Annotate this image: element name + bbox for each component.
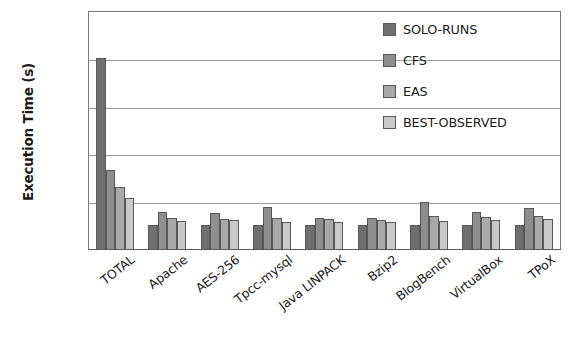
- bar: [386, 222, 396, 249]
- bar: [96, 58, 106, 249]
- bar: [220, 219, 230, 249]
- bar: [106, 170, 116, 249]
- bar: [158, 212, 168, 249]
- legend-swatch-icon: [383, 23, 396, 36]
- legend-swatch-icon: [383, 85, 396, 98]
- bar-group: [298, 12, 350, 249]
- bar: [210, 213, 220, 249]
- bar: [167, 218, 177, 249]
- legend-item: SOLO-RUNS: [383, 14, 563, 45]
- bar: [253, 225, 263, 249]
- bar: [334, 222, 344, 249]
- x-tick-label: TPoX: [454, 252, 558, 338]
- bar: [148, 225, 158, 249]
- bar: [201, 225, 211, 249]
- bar: [324, 219, 334, 249]
- legend-item: BEST-OBSERVED: [383, 107, 563, 138]
- legend-item: EAS: [383, 76, 563, 107]
- bar: [462, 225, 472, 249]
- legend-swatch-icon: [383, 54, 396, 67]
- bar: [263, 207, 273, 249]
- legend-item: CFS: [383, 45, 563, 76]
- chart-legend: SOLO-RUNSCFSEASBEST-OBSERVED: [383, 14, 563, 138]
- bar: [367, 218, 377, 249]
- legend-swatch-icon: [383, 116, 396, 129]
- bar-group: [194, 12, 246, 249]
- bar: [305, 225, 315, 249]
- bar: [410, 225, 420, 249]
- bar: [377, 220, 387, 249]
- bar: [115, 187, 125, 249]
- x-tick-label: Tpcc-mysql: [191, 252, 295, 338]
- bar: [491, 220, 501, 249]
- legend-label: EAS: [403, 84, 427, 99]
- legend-label: CFS: [403, 53, 427, 68]
- bar-chart-figure: Execution Time (s) 1000 800 600 400 200 …: [0, 0, 568, 358]
- bar-group: [246, 12, 298, 249]
- bar: [472, 212, 482, 249]
- bar: [272, 218, 282, 249]
- legend-label: BEST-OBSERVED: [403, 115, 507, 130]
- bar-group: [141, 12, 193, 249]
- bar: [358, 225, 368, 249]
- bar: [429, 216, 439, 249]
- bar: [534, 216, 544, 249]
- bar: [481, 217, 491, 249]
- bar: [177, 221, 187, 249]
- bar: [515, 225, 525, 249]
- bar: [543, 219, 553, 249]
- bar: [420, 202, 430, 249]
- x-axis-tick-labels: TOTALApacheAES-256Tpcc-mysqlJava LINPACK…: [88, 252, 561, 358]
- x-tick-label: Bzip2: [296, 252, 400, 338]
- bar: [439, 221, 449, 249]
- y-axis-title: Execution Time (s): [20, 42, 36, 222]
- legend-label: SOLO-RUNS: [403, 22, 477, 37]
- bar: [229, 220, 239, 249]
- bar-group: [89, 12, 141, 249]
- bar: [125, 198, 135, 249]
- bar: [315, 218, 325, 249]
- bar: [524, 208, 534, 249]
- bar: [282, 222, 292, 249]
